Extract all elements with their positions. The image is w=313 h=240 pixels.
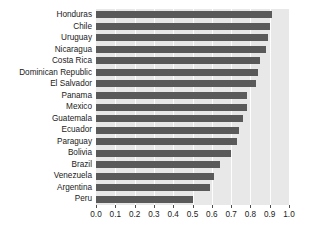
bar-row: [96, 170, 289, 182]
x-axis-tick-mark: [250, 205, 251, 208]
bar-costa-rica: [96, 57, 260, 64]
bar-guatemala: [96, 115, 243, 122]
bar-row: [96, 101, 289, 113]
bar-row: [96, 32, 289, 44]
bar-chile: [96, 23, 270, 30]
bar-row: [96, 124, 289, 136]
bar-chart-figure: HondurasChileUruguayNicaraguaCosta RicaD…: [0, 0, 313, 240]
y-axis-label-nicaragua: Nicaragua: [0, 44, 92, 56]
x-axis-tick-mark: [270, 205, 271, 208]
bar-row: [96, 147, 289, 159]
x-axis-tick-label: 1.0: [274, 210, 304, 219]
y-axis-label-costa-rica: Costa Rica: [0, 55, 92, 67]
bar-row: [96, 182, 289, 194]
bar-row: [96, 9, 289, 21]
y-axis-label-brazil: Brazil: [0, 159, 92, 171]
x-axis-tick-mark: [96, 205, 97, 208]
bar-mexico: [96, 104, 247, 111]
bar-dominican-republic: [96, 69, 258, 76]
x-axis: 0.00.10.20.30.40.50.60.70.80.91.0: [96, 205, 289, 235]
bar-nicaragua: [96, 46, 266, 53]
y-axis-label-bolivia: Bolivia: [0, 147, 92, 159]
bar-brazil: [96, 161, 220, 168]
bar-argentina: [96, 184, 210, 191]
bar-peru: [96, 196, 193, 203]
y-axis-category-labels: HondurasChileUruguayNicaraguaCosta RicaD…: [0, 9, 92, 205]
y-axis-label-el-salvador: El Salvador: [0, 78, 92, 90]
y-axis-label-chile: Chile: [0, 21, 92, 33]
bar-ecuador: [96, 127, 239, 134]
bar-panama: [96, 92, 247, 99]
bar-series: [96, 9, 289, 205]
y-axis-label-argentina: Argentina: [0, 182, 92, 194]
bar-el-salvador: [96, 80, 256, 87]
bar-row: [96, 113, 289, 125]
bar-row: [96, 44, 289, 56]
bar-row: [96, 55, 289, 67]
bar-uruguay: [96, 34, 268, 41]
bar-row: [96, 159, 289, 171]
x-axis-tick-mark: [135, 205, 136, 208]
plot-area: [96, 9, 289, 205]
y-axis-label-uruguay: Uruguay: [0, 32, 92, 44]
y-axis-label-dominican-republic: Dominican Republic: [0, 67, 92, 79]
bar-row: [96, 67, 289, 79]
x-axis-tick-mark: [115, 205, 116, 208]
bar-paraguay: [96, 138, 237, 145]
y-axis-label-mexico: Mexico: [0, 101, 92, 113]
bar-row: [96, 90, 289, 102]
x-axis-tick-mark: [289, 205, 290, 208]
bar-row: [96, 21, 289, 33]
bar-row: [96, 136, 289, 148]
y-axis-label-guatemala: Guatemala: [0, 113, 92, 125]
x-axis-tick-mark: [173, 205, 174, 208]
bar-venezuela: [96, 173, 214, 180]
x-axis-tick-mark: [193, 205, 194, 208]
bar-row: [96, 193, 289, 205]
y-axis-label-peru: Peru: [0, 193, 92, 205]
y-axis-label-panama: Panama: [0, 90, 92, 102]
y-axis-label-ecuador: Ecuador: [0, 124, 92, 136]
y-axis-label-paraguay: Paraguay: [0, 136, 92, 148]
x-axis-tick-mark: [154, 205, 155, 208]
x-axis-tick-mark: [212, 205, 213, 208]
bar-bolivia: [96, 150, 231, 157]
x-axis-tick-mark: [231, 205, 232, 208]
y-axis-label-honduras: Honduras: [0, 9, 92, 21]
bar-row: [96, 78, 289, 90]
bar-honduras: [96, 11, 272, 18]
y-axis-label-venezuela: Venezuela: [0, 170, 92, 182]
